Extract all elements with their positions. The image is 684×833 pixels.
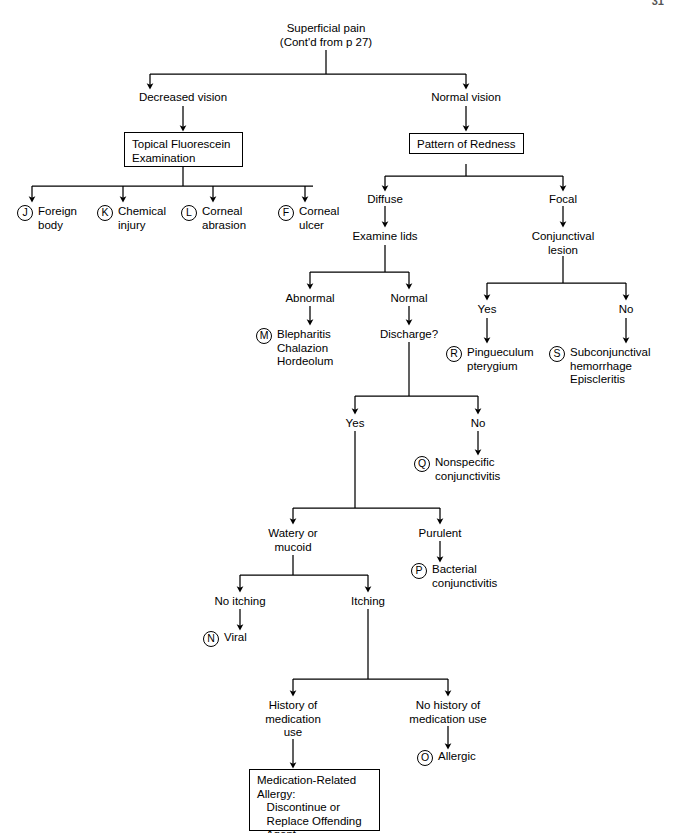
node-discharge-question: Discharge?: [380, 328, 438, 342]
node-discharge-yes: Yes: [346, 417, 365, 431]
node-viral: Viral: [224, 631, 247, 645]
node-allergic: Allergic: [438, 750, 476, 764]
node-diffuse: Diffuse: [367, 193, 403, 207]
marker-r-icon: R: [446, 346, 462, 362]
box-pattern-of-redness: Pattern of Redness: [409, 133, 524, 154]
node-normal: Normal: [390, 292, 427, 306]
marker-j-icon: J: [17, 205, 33, 221]
node-pingueculum-pterygium: Pingueculum pterygium: [467, 346, 533, 373]
marker-q-icon: Q: [414, 456, 430, 472]
marker-m-icon: M: [256, 328, 272, 344]
node-subconjunctival-hemorrhage: Subconjunctival hemorrhage Episcleritis: [570, 346, 651, 387]
node-lesion-no: No: [619, 303, 634, 317]
node-watery-or-mucoid: Watery or mucoid: [268, 527, 317, 554]
node-abnormal: Abnormal: [285, 292, 334, 306]
node-corneal-ulcer: Corneal ulcer: [299, 205, 339, 232]
marker-l-icon: L: [181, 205, 197, 221]
marker-o-icon: O: [417, 750, 433, 766]
node-history-of-medication-use: History of medication use: [265, 699, 321, 740]
marker-s-icon: S: [549, 346, 565, 362]
node-foreign-body: Foreign body: [38, 205, 77, 232]
marker-f-icon: F: [278, 205, 294, 221]
node-no-itching: No itching: [214, 595, 265, 609]
node-corneal-abrasion: Corneal abrasion: [202, 205, 246, 232]
connector-lines: [0, 0, 684, 833]
node-bacterial-conjunctivitis: Bacterial conjunctivitis: [432, 563, 497, 590]
node-discharge-no: No: [471, 417, 486, 431]
marker-n-icon: N: [203, 631, 219, 647]
marker-k-icon: K: [97, 205, 113, 221]
node-chemical-injury: Chemical injury: [118, 205, 166, 232]
node-nonspecific-conjunctivitis: Nonspecific conjunctivitis: [435, 456, 500, 483]
node-blepharitis-chalazion-hordeolum: Blepharitis Chalazion Hordeolum: [277, 328, 333, 369]
node-no-history-of-medication-use: No history of medication use: [409, 699, 486, 726]
node-examine-lids: Examine lids: [352, 230, 417, 244]
flowchart-page: 31: [0, 0, 684, 833]
node-purulent: Purulent: [419, 527, 462, 541]
node-itching: Itching: [351, 595, 385, 609]
marker-p-icon: P: [411, 563, 427, 579]
box-topical-fluorescein-examination: Topical Fluorescein Examination: [124, 132, 243, 167]
node-normal-vision: Normal vision: [431, 91, 501, 105]
node-conjunctival-lesion: Conjunctival lesion: [532, 230, 595, 257]
node-focal: Focal: [549, 193, 577, 207]
box-medication-related-allergy: Medication-Related Allergy: Discontinue …: [249, 769, 380, 831]
node-lesion-yes: Yes: [478, 303, 497, 317]
node-superficial-pain: Superficial pain (Cont'd from p 27): [280, 22, 372, 49]
node-decreased-vision: Decreased vision: [139, 91, 227, 105]
